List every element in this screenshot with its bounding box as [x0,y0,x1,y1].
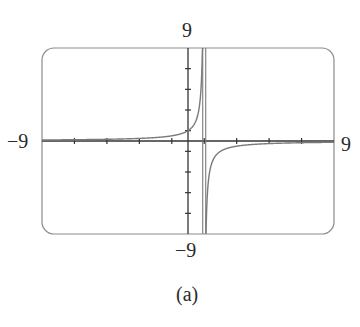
figure-caption: (a) [176,284,198,304]
graph-plot [0,0,360,327]
y-max-label: 9 [182,20,192,40]
x-max-label: 9 [341,134,351,154]
axes [42,48,334,234]
x-min-label: −9 [7,131,28,151]
y-min-label: −9 [175,240,196,260]
